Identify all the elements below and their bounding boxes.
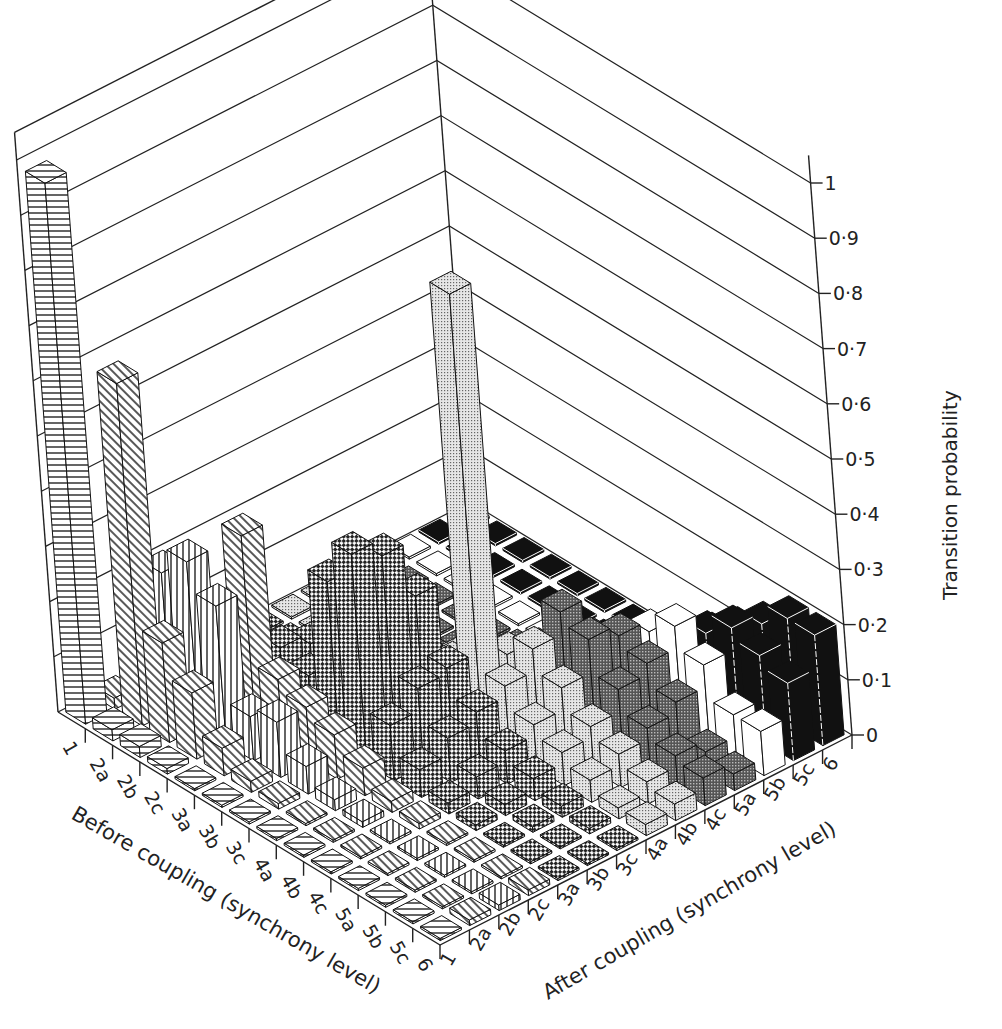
before-level-label: 6	[413, 954, 438, 975]
before-level-label: 2a	[85, 754, 116, 786]
bar	[499, 601, 540, 626]
after-level-label: 3a	[553, 878, 584, 910]
bar	[425, 852, 466, 877]
before-level-label: 1	[58, 737, 83, 758]
after-level-label: 5c	[788, 759, 818, 790]
bar	[341, 834, 382, 859]
before-level-label: 5a	[331, 904, 362, 936]
after-level-label: 4b	[671, 818, 702, 850]
bar	[286, 801, 327, 826]
before-level-label: 4a	[249, 854, 280, 886]
before-level-label: 4c	[304, 887, 334, 918]
after-level-label: 2b	[494, 908, 525, 940]
after-level-label: 2c	[523, 894, 553, 925]
z-tick-label: 0·8	[833, 282, 863, 304]
bar	[503, 538, 544, 563]
after-level-label: 5b	[759, 773, 790, 805]
chart-canvas: 00·10·20·30·40·50·60·70·80·9112a2b2c3a3b…	[0, 0, 1002, 1029]
before-level-label: 3c	[222, 837, 252, 868]
z-tick-label: 0·7	[837, 338, 867, 360]
bar	[398, 836, 439, 861]
after-level-label: 6	[818, 753, 843, 774]
bar	[395, 867, 436, 892]
z-tick-label: 0·3	[854, 558, 884, 580]
after-level-label: 4a	[641, 833, 672, 865]
z-tick-label: 0·6	[841, 393, 871, 415]
z-tick-label: 0·1	[862, 669, 892, 691]
bar	[368, 851, 409, 876]
before-level-label: 3a	[167, 804, 198, 836]
z-axis-title: Transition probability	[938, 390, 962, 601]
bar	[484, 822, 525, 847]
transition-probability-3d-bar-chart: 00·10·20·30·40·50·60·70·80·9112a2b2c3a3b…	[0, 0, 1002, 1029]
bar	[585, 587, 626, 612]
z-tick-label: 0·9	[829, 227, 859, 249]
before-level-label: 5c	[386, 937, 416, 968]
z-tick-label: 1	[825, 172, 837, 194]
before-level-label: 2c	[140, 787, 170, 818]
after-level-label: 5a	[729, 788, 760, 820]
bar	[501, 569, 542, 594]
after-level-label: 4c	[700, 804, 730, 835]
bar	[511, 839, 552, 864]
z-tick-label: 0·4	[849, 503, 879, 525]
z-tick-label: 0·2	[858, 614, 888, 636]
bar	[540, 824, 581, 849]
bar	[530, 554, 571, 579]
bar	[454, 837, 495, 862]
z-tick-label: 0·5	[845, 448, 875, 470]
gridline	[17, 0, 811, 183]
after-level-label: 2a	[465, 923, 496, 955]
after-level-label: 1	[435, 948, 460, 969]
bar	[314, 817, 355, 842]
after-level-label: 3c	[612, 849, 642, 880]
wall-top	[15, 0, 427, 132]
bar	[427, 821, 468, 846]
gridline	[21, 5, 815, 238]
bar	[370, 819, 411, 844]
after-level-label: 3b	[582, 863, 613, 895]
z-tick-label: 0	[866, 724, 878, 746]
bar	[272, 594, 313, 619]
